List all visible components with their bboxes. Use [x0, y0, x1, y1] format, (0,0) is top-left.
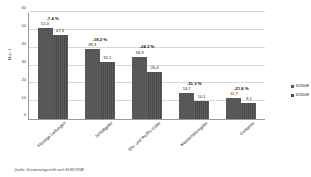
y-axis-tick-label: 30	[21, 60, 29, 64]
legend-label: II/2009	[296, 93, 309, 97]
bar-group: 11,79,1-21,8 %	[221, 13, 261, 119]
bar-value-label: 10,1	[198, 95, 206, 99]
bar[interactable]: 39,3	[85, 49, 100, 119]
bar[interactable]: 26,4	[147, 72, 162, 119]
legend-item[interactable]: II/2008	[291, 84, 309, 88]
legend: II/2008II/2009	[291, 84, 309, 98]
y-axis-tick-label: 10	[21, 96, 29, 100]
legend-label: II/2008	[296, 84, 309, 88]
change-annotation: -21,8 %	[234, 87, 249, 91]
y-axis-tick-label: 40	[21, 42, 29, 46]
legend-swatch	[291, 94, 294, 97]
bar[interactable]: 9,1	[241, 103, 256, 119]
y-axis-tick-label: 60	[21, 6, 29, 10]
bar[interactable]: 14,7	[179, 93, 194, 119]
bar-group: 34,926,4-24,3 %	[127, 13, 167, 119]
bar-value-label: 47,3	[56, 29, 64, 33]
bar-value-label: 26,4	[150, 66, 158, 70]
bar[interactable]: 34,9	[132, 57, 147, 119]
x-axis-labels: Flüssige LadungenSchüttgüterRlo- und Ro/…	[28, 121, 265, 163]
bar-group: 51,047,3-7,4 %	[33, 13, 73, 119]
change-annotation: -31,3 %	[187, 82, 202, 86]
x-axis-category-label: Flüssige Ladungen	[37, 121, 67, 148]
bar-value-label: 32,1	[103, 56, 111, 60]
x-axis-category-label: Schüttgüter	[95, 121, 114, 139]
bar-group: 39,332,1-18,2 %	[80, 13, 120, 119]
chart-container: Mio. t 0102030405060 51,047,3-7,4 %39,33…	[0, 0, 311, 177]
change-annotation: -24,3 %	[140, 45, 155, 49]
bar[interactable]: 32,1	[100, 62, 115, 119]
source-note: Quelle: Zusammengestellt nach EUROSTAT	[14, 169, 85, 173]
bar-value-label: 14,7	[183, 87, 191, 91]
bar-value-label: 51,0	[41, 22, 49, 26]
x-axis-category-label: Rlo- und Ro/Ro-Güter	[127, 121, 161, 152]
legend-item[interactable]: II/2009	[291, 93, 309, 97]
y-axis-tick-label: 50	[21, 24, 29, 28]
bar[interactable]: 51,0	[38, 28, 53, 119]
x-axis-category-label: Massenstückgüter	[180, 121, 209, 148]
bar-group: 14,710,1-31,3 %	[174, 13, 214, 119]
change-annotation: -7,4 %	[46, 17, 58, 21]
bar-value-label: 34,9	[135, 51, 143, 55]
y-axis-tick-label: 20	[21, 78, 29, 82]
change-annotation: -18,2 %	[92, 38, 107, 42]
gridline	[29, 11, 265, 12]
bar-value-label: 11,7	[230, 92, 238, 96]
x-axis-category-label: Container	[239, 121, 256, 137]
bar[interactable]: 11,7	[226, 98, 241, 119]
bar-groups: 51,047,3-7,4 %39,332,1-18,2 %34,926,4-24…	[29, 13, 265, 119]
bar-value-label: 9,1	[246, 97, 252, 101]
y-axis-title: Mio. t	[8, 49, 12, 60]
bar[interactable]: 10,1	[194, 101, 209, 119]
bar[interactable]: 47,3	[53, 35, 68, 119]
legend-swatch	[291, 85, 294, 88]
plot-area: 0102030405060 51,047,3-7,4 %39,332,1-18,…	[28, 13, 265, 120]
bar-value-label: 39,3	[88, 43, 96, 47]
